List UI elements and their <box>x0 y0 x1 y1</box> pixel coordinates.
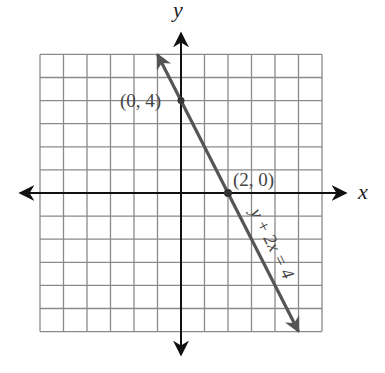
point-2-0 <box>224 189 232 197</box>
x-axis-label: x <box>357 179 368 204</box>
point-label-2-0: (2, 0) <box>233 169 274 191</box>
y-axis-label: y <box>171 0 183 22</box>
point-0-4 <box>178 97 185 104</box>
coordinate-plane-figure: x y (0, 4) (2, 0) y + 2x = 4 <box>0 0 385 373</box>
point-label-0-4: (0, 4) <box>120 90 161 112</box>
